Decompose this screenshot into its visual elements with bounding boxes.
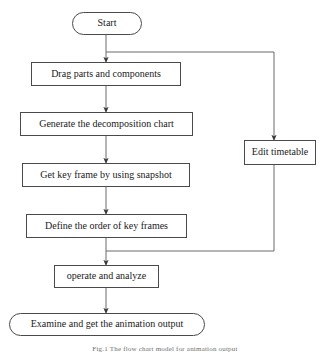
node-examine-output-label: Examine and get the animation output [27, 319, 187, 330]
node-get-key-frame-label: Get key frame by using snapshot [36, 170, 175, 181]
node-start[interactable]: Start [72, 12, 142, 35]
node-operate-analyze[interactable]: operate and analyze [54, 265, 159, 288]
node-edit-timetable-label: Edit timetable [248, 147, 312, 158]
node-define-order-label: Define the order of key frames [41, 221, 172, 232]
flowchart-canvas: Start Drag parts and components Generate… [0, 0, 330, 352]
node-generate-chart[interactable]: Generate the decomposition chart [20, 112, 193, 136]
figure-caption: Fig.1 The flow chart model for animation… [0, 345, 330, 352]
node-edit-timetable[interactable]: Edit timetable [244, 140, 316, 165]
node-examine-output[interactable]: Examine and get the animation output [9, 313, 205, 336]
node-define-order[interactable]: Define the order of key frames [26, 214, 187, 238]
node-get-key-frame[interactable]: Get key frame by using snapshot [22, 163, 190, 187]
node-start-label: Start [94, 18, 121, 29]
node-generate-chart-label: Generate the decomposition chart [35, 119, 178, 130]
node-drag-parts-label: Drag parts and components [47, 69, 165, 80]
node-operate-analyze-label: operate and analyze [63, 271, 150, 282]
node-drag-parts[interactable]: Drag parts and components [31, 62, 181, 86]
